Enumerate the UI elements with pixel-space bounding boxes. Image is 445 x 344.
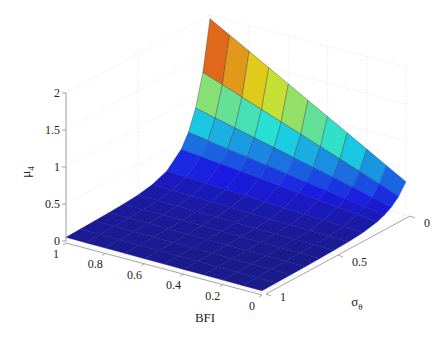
z-tick-label: 0	[54, 234, 60, 248]
z-tick-label: 1	[54, 160, 60, 174]
surface-plot: 00.511.5210.80.60.40.2010.50 μ4 BFI σθ	[0, 0, 445, 344]
x-tick-label: 0.8	[88, 257, 103, 271]
y-tick-label: 0	[424, 216, 430, 230]
z-tick-label: 0.5	[45, 197, 60, 211]
x-tick-label: 0.4	[166, 278, 181, 292]
z-tick-label: 1.5	[45, 123, 60, 137]
y-axis-label: σθ	[351, 294, 362, 312]
x-tick-label: 1	[53, 247, 59, 261]
z-axis-label: μ4	[18, 166, 36, 178]
y-tick-label: 0.5	[352, 255, 367, 269]
surface	[66, 19, 406, 291]
z-tick-label: 2	[54, 86, 60, 100]
y-tick-label: 1	[280, 290, 286, 304]
x-tick-label: 0.6	[127, 268, 142, 282]
x-tick-label: 0.2	[205, 289, 220, 303]
x-tick-label: 0	[249, 299, 255, 313]
x-axis-label: BFI	[195, 310, 215, 325]
